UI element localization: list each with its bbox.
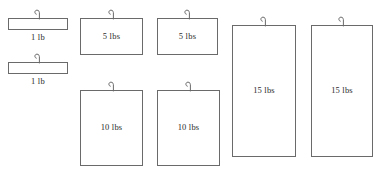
weights-diagram: 1 lb1 lb5 lbs5 lbs10 lbs10 lbs15 lbs15 l… xyxy=(0,0,378,172)
weight-plate[interactable] xyxy=(8,62,68,74)
weight-label: 1 lb xyxy=(8,76,68,86)
weight-label: 10 lbs xyxy=(157,122,220,132)
weight-label: 15 lbs xyxy=(232,85,296,95)
weight-label: 5 lbs xyxy=(157,31,218,41)
weight-plate[interactable] xyxy=(8,18,68,30)
weight-label: 10 lbs xyxy=(80,122,143,132)
weight-label: 15 lbs xyxy=(311,85,373,95)
weight-label: 1 lb xyxy=(8,32,68,42)
weight-label: 5 lbs xyxy=(80,31,143,41)
